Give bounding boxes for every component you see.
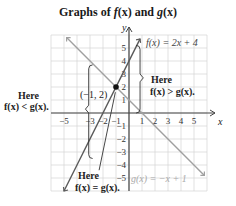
- x-axis-label: x: [218, 116, 222, 127]
- y-tick-label: −2: [116, 134, 126, 144]
- y-tick-label: 2: [122, 82, 127, 92]
- y-tick-label: 4: [122, 56, 127, 66]
- x-tick-label: 3: [166, 116, 171, 126]
- x-tick-label: −5: [59, 116, 69, 126]
- x-tick-label: 5: [192, 116, 197, 126]
- annotation-equal-here: Here: [78, 170, 99, 181]
- y-tick-label: −1: [116, 121, 126, 131]
- y-tick-label: −4: [116, 160, 126, 170]
- annotation-less-text: f(x) < g(x).: [4, 101, 49, 112]
- y-tick-label: −3: [116, 147, 126, 157]
- annotation-greater-text: f(x) > g(x).: [150, 86, 195, 97]
- f-equation-label: f(x) = 2x + 4: [146, 37, 198, 48]
- annotation-greater-here: Here: [151, 74, 172, 85]
- y-tick-label: 5: [122, 43, 127, 53]
- annotation-equal-text: f(x) = g(x).: [75, 182, 120, 193]
- y-axis-label: y: [122, 22, 126, 33]
- x-tick-label: 4: [179, 116, 184, 126]
- x-tick-label: 1: [140, 116, 145, 126]
- intersection-label: (−1, 2): [80, 89, 107, 100]
- x-tick-label: −3: [85, 116, 95, 126]
- intersection-point: [113, 84, 119, 90]
- g-equation-label: g(x) = −x + 1: [131, 173, 187, 184]
- annotation-less-here: Here: [18, 90, 39, 101]
